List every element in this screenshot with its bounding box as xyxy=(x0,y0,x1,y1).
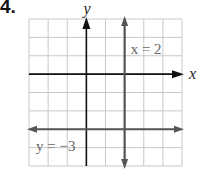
y-axis-label: y xyxy=(81,0,91,18)
y-axis: y xyxy=(81,0,91,166)
coordinate-graph: x y x = 2 y = −3 xyxy=(0,0,203,180)
arrow-down-icon xyxy=(121,159,128,169)
arrow-up-icon xyxy=(121,16,128,26)
label-y-equals-neg3: y = −3 xyxy=(36,138,75,154)
label-x-equals-2: x = 2 xyxy=(131,41,162,57)
x-axis-label: x xyxy=(188,65,196,82)
x-axis: x xyxy=(29,65,196,82)
